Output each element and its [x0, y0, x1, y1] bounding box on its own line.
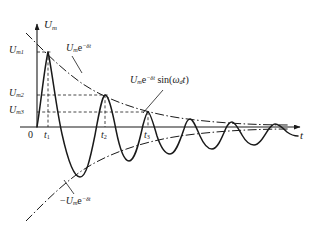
x-axis-title: t: [300, 130, 303, 141]
lower-envelope-label: −Ume−δt: [60, 196, 91, 207]
leader-lower-envelope: [64, 180, 74, 194]
upper-envelope-label: Ume−δt: [66, 43, 91, 54]
leader-upper-envelope: [72, 56, 82, 73]
x-tick-label-t3: t3: [144, 130, 150, 141]
damped-sinusoid-curve: [37, 52, 298, 177]
y-axis-title: Um: [44, 19, 57, 31]
x-tick-label-t1: t1: [44, 130, 50, 141]
leader-curve-label: [143, 90, 163, 113]
lower-envelope-curve: [26, 129, 290, 221]
curve-equation-label: Ume−δt sin(ωdt): [130, 75, 189, 86]
plot-canvas: [0, 0, 313, 238]
y-tick-label-um2: Um2: [9, 88, 24, 99]
y-tick-label-um1: Um1: [9, 45, 24, 56]
x-tick-label-t2: t2: [101, 130, 107, 141]
y-tick-label-um3: Um3: [9, 105, 24, 116]
x-tick-label-origin: 0: [28, 130, 33, 140]
damped-oscillation-figure: Um t Um1 Um2 Um3 0 t1 t2 t3 Ume−δt Ume−δ…: [0, 0, 313, 238]
